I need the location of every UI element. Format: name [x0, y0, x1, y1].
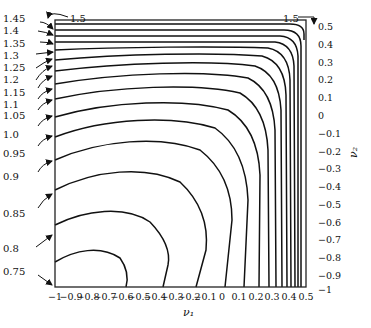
- svg-text:−0.2: −0.2: [318, 146, 341, 157]
- svg-text:−0.3: −0.3: [318, 163, 341, 174]
- svg-text:0.5: 0.5: [298, 291, 313, 302]
- top-level-labels: 1.5 1.5: [48, 13, 314, 24]
- svg-text:0.9: 0.9: [3, 171, 19, 182]
- svg-text:0.2: 0.2: [318, 74, 333, 85]
- svg-text:1.2: 1.2: [3, 74, 19, 85]
- svg-text:0.1: 0.1: [318, 92, 333, 103]
- svg-text:1.45: 1.45: [3, 13, 25, 24]
- svg-text:−0.5: −0.5: [318, 199, 341, 210]
- svg-text:0.4: 0.4: [318, 39, 333, 50]
- svg-text:1.15: 1.15: [3, 87, 25, 98]
- svg-text:0.8: 0.8: [3, 243, 19, 254]
- svg-text:0.3: 0.3: [318, 57, 333, 68]
- svg-text:1.5: 1.5: [70, 13, 86, 24]
- svg-text:0.3: 0.3: [264, 291, 279, 302]
- svg-text:1.25: 1.25: [3, 62, 25, 73]
- svg-text:1.5: 1.5: [283, 13, 299, 24]
- svg-text:1.0: 1.0: [3, 129, 19, 140]
- svg-text:1.35: 1.35: [3, 38, 25, 49]
- svg-text:1.4: 1.4: [3, 25, 19, 36]
- svg-text:−1: −1: [318, 284, 332, 295]
- y-axis-label: ν₂: [347, 147, 360, 158]
- svg-text:0.1: 0.1: [231, 291, 246, 302]
- x-axis-ticks: −1 −0.9 −0.8 −0.7 −0.6 −0.5 −0.4 −0.3 −0…: [48, 291, 314, 302]
- svg-text:0: 0: [219, 291, 225, 302]
- level-arrows: [36, 22, 53, 285]
- svg-text:0.75: 0.75: [3, 266, 25, 277]
- svg-text:−0.7: −0.7: [318, 234, 341, 245]
- svg-text:−0.4: −0.4: [318, 181, 341, 192]
- svg-text:0: 0: [318, 110, 324, 121]
- svg-text:0.2: 0.2: [248, 291, 263, 302]
- left-level-labels: 1.45 1.4 1.35 1.3 1.25 1.2 1.15 1.1 1.05…: [3, 13, 25, 277]
- y-axis-ticks: 0.5 0.4 0.3 0.2 0.1 0 −0.1 −0.2 −0.3 −0.…: [318, 21, 341, 295]
- svg-text:0.5: 0.5: [318, 21, 333, 32]
- contour-lines: [55, 24, 304, 287]
- svg-text:0.95: 0.95: [3, 148, 25, 159]
- svg-text:1.3: 1.3: [3, 50, 19, 61]
- svg-text:−0.1: −0.1: [193, 291, 216, 302]
- svg-text:−0.9: −0.9: [318, 270, 341, 281]
- x-axis-label: ν₁: [183, 306, 194, 319]
- svg-text:1.1: 1.1: [3, 99, 19, 110]
- svg-text:−0.1: −0.1: [318, 128, 341, 139]
- svg-text:0.4: 0.4: [281, 291, 296, 302]
- svg-text:−0.6: −0.6: [318, 217, 341, 228]
- svg-text:−0.8: −0.8: [318, 252, 341, 263]
- svg-text:1.05: 1.05: [3, 110, 25, 121]
- svg-text:0.85: 0.85: [3, 208, 25, 219]
- contour-chart: 1.45 1.4 1.35 1.3 1.25 1.2 1.15 1.1 1.05…: [0, 0, 371, 328]
